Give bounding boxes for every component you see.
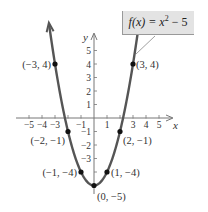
point-label: (−2, −1)	[30, 135, 65, 147]
y-tick-label: 2	[86, 87, 91, 97]
y-tick-label: 4	[86, 60, 91, 70]
point-label: (−3, 4)	[22, 59, 51, 71]
data-point	[104, 169, 109, 174]
y-tick-label: −1	[81, 127, 91, 137]
axes	[16, 33, 173, 194]
data-point	[52, 61, 57, 66]
point-label: (3, 4)	[136, 59, 159, 71]
x-tick-label: −4	[37, 120, 47, 130]
y-tick-label: 1	[86, 100, 91, 110]
x-tick-label: −5	[24, 120, 34, 130]
label-pointer-line	[136, 36, 155, 54]
equation-base: f(x) = x	[129, 15, 165, 29]
data-point	[65, 129, 70, 134]
x-tick-label: 4	[144, 120, 149, 130]
x-axis-label: x	[172, 119, 178, 131]
equation-label: f(x) = x2 − 5	[124, 14, 192, 30]
x-tick-label: 5	[157, 120, 162, 130]
x-tick-label: −3	[50, 120, 60, 130]
y-tick-label: 3	[86, 73, 91, 83]
data-point	[117, 129, 122, 134]
y-tick-label: −2	[81, 141, 91, 151]
point-label: (−1, −4)	[42, 167, 77, 179]
equation-tail: − 5	[169, 15, 188, 29]
x-tick-label: 3	[131, 120, 136, 130]
point-label: (0, −5)	[97, 191, 126, 203]
data-point	[78, 169, 83, 174]
data-point	[91, 183, 96, 188]
point-label: (2, −1)	[123, 135, 152, 147]
x-tick-label: 1	[105, 120, 110, 130]
y-tick-label: −3	[81, 154, 91, 164]
point-label: (1, −4)	[111, 167, 140, 179]
y-tick-label: 5	[86, 46, 91, 56]
y-axis-label: y	[82, 31, 88, 43]
data-point	[130, 61, 135, 66]
